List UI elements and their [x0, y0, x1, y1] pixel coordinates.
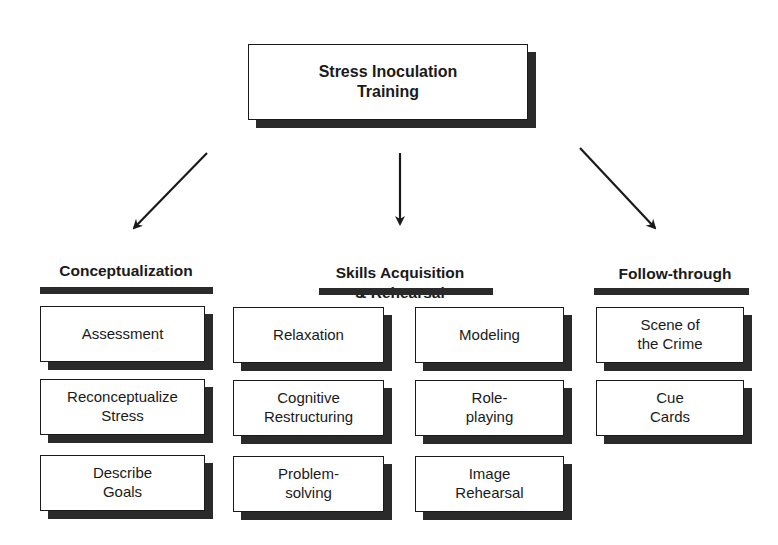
node-describe-goals: Describe Goals: [40, 455, 205, 511]
node-image-rehearsal: Image Rehearsal: [415, 456, 564, 512]
node-label: Describe Goals: [93, 464, 152, 502]
node-role-playing: Role- playing: [415, 380, 564, 436]
arrow-to-conceptualization: [134, 153, 207, 228]
heading-conceptualization: Conceptualization: [40, 262, 212, 280]
arrow-to-follow-through: [580, 148, 655, 228]
heading-follow-through: Follow-through: [595, 265, 755, 283]
node-label: Cognitive Restructuring: [264, 389, 353, 427]
node-label: Cue Cards: [650, 389, 690, 427]
node-label: Role- playing: [466, 389, 514, 427]
node-label: Assessment: [82, 325, 164, 344]
heading-label: Follow-through: [619, 265, 732, 282]
node-label: Modeling: [459, 326, 520, 345]
node-modeling: Modeling: [415, 307, 564, 363]
node-cue-cards: Cue Cards: [596, 380, 744, 436]
node-label: Problem- solving: [278, 465, 339, 503]
node-label: Image Rehearsal: [455, 465, 523, 503]
node-relaxation: Relaxation: [233, 307, 384, 363]
node-scene-of-the-crime: Scene of the Crime: [596, 307, 744, 363]
heading-underline-skills: [319, 288, 493, 295]
node-reconceptualize-stress: Reconceptualize Stress: [40, 379, 205, 435]
node-problem-solving: Problem- solving: [233, 456, 384, 512]
node-label: Relaxation: [273, 326, 344, 345]
node-label: Reconceptualize Stress: [67, 388, 178, 426]
heading-underline-follow-through: [594, 288, 749, 295]
heading-label: Skills Acquisition & Rehearsal: [336, 264, 465, 301]
node-label: Scene of the Crime: [637, 316, 702, 354]
heading-label: Conceptualization: [59, 262, 192, 279]
heading-underline-conceptualization: [40, 287, 213, 294]
node-assessment: Assessment: [40, 306, 205, 362]
node-cognitive-restructuring: Cognitive Restructuring: [233, 380, 384, 436]
